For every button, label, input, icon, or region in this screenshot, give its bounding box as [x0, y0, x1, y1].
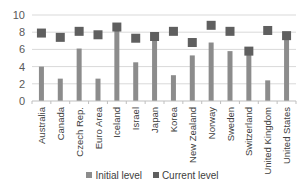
initial-level-swatch-icon [86, 172, 92, 178]
y-tick-label: 4 [19, 61, 25, 73]
initial-level-bars [39, 30, 289, 101]
initial-level-bar [39, 67, 44, 101]
category-label: Canada [55, 106, 66, 140]
category-label: Korea [168, 106, 179, 132]
y-tick-label: 10 [13, 9, 25, 21]
legend-item-initial: Initial level [86, 170, 142, 181]
y-axis-ticks: 0246810 [13, 9, 25, 107]
category-label: United Kingdom [262, 107, 273, 175]
y-tick-label: 8 [19, 26, 25, 38]
current-level-marker [169, 27, 178, 36]
category-label: United States [281, 107, 292, 164]
gridlines [32, 15, 296, 84]
x-axis-labels: AustraliaCanadaCzech Rep.Euro AreaIcelan… [36, 106, 292, 174]
current-level-marker [244, 47, 253, 56]
category-label: Israel [130, 107, 141, 130]
category-label: Switzerland [243, 107, 254, 156]
y-tick-label: 2 [19, 78, 25, 90]
category-label: Australia [36, 106, 47, 144]
category-label: Iceland [111, 107, 122, 138]
initial-level-bar [209, 43, 214, 101]
category-label: Norway [206, 107, 217, 139]
initial-level-bar [190, 55, 195, 101]
y-tick-label: 6 [19, 43, 25, 55]
category-label: Euro Area [93, 106, 104, 149]
initial-level-bar [246, 55, 251, 101]
current-level-marker [75, 27, 84, 36]
initial-level-bar [133, 62, 138, 101]
y-tick-label: 0 [19, 95, 25, 107]
category-label: Czech Rep. [74, 107, 85, 157]
initial-level-bar [77, 49, 82, 101]
current-level-marker [226, 27, 235, 36]
legend-item-current: Current level [153, 170, 219, 181]
initial-level-bar [152, 38, 157, 101]
current-level-marker [263, 26, 272, 35]
x-axis [32, 101, 296, 104]
initial-level-bar [58, 79, 63, 101]
initial-level-bar [265, 80, 270, 101]
current-level-marker [94, 30, 103, 39]
initial-level-bar [114, 30, 119, 101]
category-label: Japan [149, 107, 160, 133]
initial-level-bar [96, 79, 101, 101]
current-level-swatch-icon [153, 172, 159, 178]
current-level-marker [207, 21, 216, 30]
category-label: New Zealand [187, 107, 198, 163]
initial-level-bar [171, 75, 176, 101]
current-level-marker [282, 31, 291, 40]
current-level-marker [56, 33, 65, 42]
current-level-markers [37, 21, 291, 56]
initial-level-bar [284, 37, 289, 101]
current-level-marker [150, 32, 159, 41]
initial-level-bar [228, 51, 233, 101]
current-level-marker [37, 29, 46, 38]
chart: 0246810 AustraliaCanadaCzech Rep.Euro Ar… [0, 0, 305, 191]
current-level-marker [112, 23, 121, 32]
legend-current-label: Current level [162, 170, 219, 181]
legend: Initial level Current level [0, 169, 305, 181]
current-level-marker [131, 34, 140, 43]
category-label: Sweden [225, 107, 236, 141]
current-level-marker [188, 38, 197, 47]
legend-initial-label: Initial level [95, 170, 142, 181]
